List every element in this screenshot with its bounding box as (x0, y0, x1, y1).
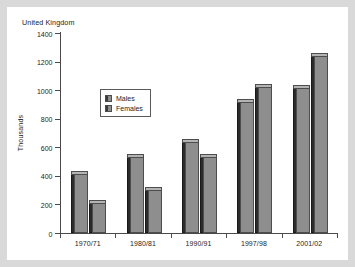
bar-front-face (314, 56, 328, 233)
bar-top-face (71, 171, 88, 175)
bar-top-face (293, 85, 310, 89)
bar-top-face (89, 200, 106, 204)
legend-swatch-females (105, 105, 112, 112)
bar-females-1990-91 (200, 154, 217, 233)
bar-front-face (240, 102, 254, 233)
bar-top-face (311, 53, 328, 57)
plot-area (60, 33, 337, 233)
legend-item-males: Males (105, 93, 143, 103)
legend-swatch-males (105, 95, 112, 102)
bar-front-face (185, 142, 199, 233)
x-axis-label: 1997/98 (241, 240, 267, 247)
bar-front-face (258, 87, 272, 233)
bar-females-2001-02 (311, 53, 328, 233)
legend-label-females: Females (116, 105, 143, 112)
bar-males-1970-71 (71, 171, 88, 233)
legend-label-males: Males (116, 95, 135, 102)
bar-front-face (296, 88, 310, 233)
x-tick (226, 234, 227, 238)
bar-front-face (74, 174, 88, 233)
x-tick (282, 234, 283, 238)
bar-males-2001-02 (293, 85, 310, 233)
bar-females-1980-81 (145, 187, 162, 233)
bar-top-face (255, 84, 272, 88)
bar-males-1997-98 (237, 99, 254, 233)
x-tick (60, 234, 61, 238)
bar-top-face (145, 187, 162, 191)
chart-title: United Kingdom (22, 18, 75, 27)
y-tick-label: 400 (41, 173, 53, 180)
y-tick-label: 600 (41, 144, 53, 151)
y-axis-title: Thousands (17, 115, 24, 151)
x-axis-label: 1990/91 (185, 240, 211, 247)
legend-item-females: Females (105, 103, 143, 113)
x-tick (171, 234, 172, 238)
y-tick-label: 200 (41, 201, 53, 208)
bar-top-face (200, 154, 217, 158)
x-tick (115, 234, 116, 238)
y-tick-label: 1400 (37, 30, 53, 37)
y-tick-label: 800 (41, 116, 53, 123)
x-axis-label: 1970/71 (75, 240, 101, 247)
bar-top-face (127, 154, 144, 158)
x-axis-label: 1980/81 (130, 240, 156, 247)
x-axis-line (60, 233, 338, 234)
bar-front-face (130, 157, 144, 233)
bar-front-face (148, 190, 162, 233)
x-tick (337, 234, 338, 238)
bar-males-1980-81 (127, 154, 144, 233)
bar-top-face (182, 139, 199, 143)
bar-top-face (237, 99, 254, 103)
bar-females-1997-98 (255, 84, 272, 233)
x-axis-label: 2001/02 (296, 240, 322, 247)
chart-legend: Males Females (100, 89, 151, 117)
bar-front-face (203, 157, 217, 233)
bar-females-1970-71 (89, 200, 106, 233)
y-tick-label: 1000 (37, 87, 53, 94)
y-tick-label: 1200 (37, 59, 53, 66)
bar-front-face (92, 203, 106, 233)
bar-males-1990-91 (182, 139, 199, 233)
y-tick-label: 0 (49, 230, 53, 237)
chart-figure: United Kingdom Thousands 020040060080010… (7, 7, 348, 260)
